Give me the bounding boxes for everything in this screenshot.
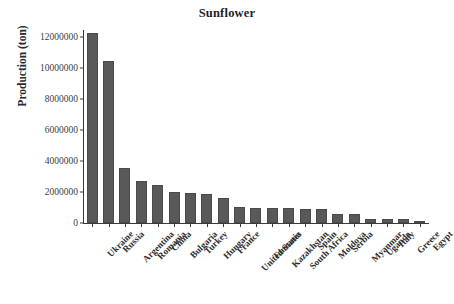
x-tick-mark: [92, 223, 93, 227]
bar-slot[interactable]: [84, 30, 100, 223]
bar-slot[interactable]: [330, 30, 346, 223]
y-tick-label: 8000000: [45, 94, 84, 104]
y-tick-label: 2000000: [45, 187, 84, 197]
x-tick-mark: [174, 223, 175, 227]
bar[interactable]: [267, 208, 278, 223]
chart-figure: Sunflower Production (ton) 0200000040000…: [0, 0, 454, 304]
bar-slot[interactable]: [379, 30, 395, 223]
x-tick-mark: [190, 223, 191, 227]
x-tick-mark: [322, 223, 323, 227]
bar[interactable]: [185, 193, 196, 223]
x-tick-mark: [289, 223, 290, 227]
bar-slot[interactable]: [231, 30, 247, 223]
bar[interactable]: [136, 181, 147, 223]
bar-slot[interactable]: [346, 30, 362, 223]
bar-slot[interactable]: [264, 30, 280, 223]
bar[interactable]: [119, 168, 130, 223]
bar[interactable]: [103, 61, 114, 223]
x-tick-mark: [354, 223, 355, 227]
bar[interactable]: [169, 192, 180, 223]
bar-slot[interactable]: [166, 30, 182, 223]
bar[interactable]: [300, 209, 311, 223]
bar-slot[interactable]: [412, 30, 428, 223]
bar-slot[interactable]: [313, 30, 329, 223]
x-tick-mark: [403, 223, 404, 227]
bar[interactable]: [250, 208, 261, 223]
bar-slot[interactable]: [395, 30, 411, 223]
x-tick-mark: [371, 223, 372, 227]
bar-slot[interactable]: [362, 30, 378, 223]
y-tick-label: 6000000: [45, 125, 84, 135]
bar-slot[interactable]: [199, 30, 215, 223]
bar[interactable]: [316, 209, 327, 223]
y-axis-label: Production (ton): [16, 0, 28, 151]
bar[interactable]: [87, 33, 98, 223]
bar[interactable]: [349, 214, 360, 223]
bar-slot[interactable]: [248, 30, 264, 223]
bar[interactable]: [218, 198, 229, 223]
plot-area: 0200000040000006000000800000010000000120…: [84, 30, 428, 223]
bar-slot[interactable]: [117, 30, 133, 223]
bar-slot[interactable]: [281, 30, 297, 223]
y-tick-label: 4000000: [45, 156, 84, 166]
bar-slot[interactable]: [133, 30, 149, 223]
chart-title: Sunflower: [0, 6, 454, 21]
x-tick-mark: [305, 223, 306, 227]
x-tick-label[interactable]: Serbia: [349, 229, 374, 254]
x-tick-mark: [125, 223, 126, 227]
x-tick-mark: [158, 223, 159, 227]
bar-series: [84, 30, 428, 223]
x-tick-mark: [240, 223, 241, 227]
y-tick-label: 10000000: [40, 63, 84, 73]
x-tick-mark: [141, 223, 142, 227]
bar-slot[interactable]: [215, 30, 231, 223]
bar[interactable]: [201, 194, 212, 223]
x-tick-mark: [272, 223, 273, 227]
bar-slot[interactable]: [150, 30, 166, 223]
x-tick-mark: [223, 223, 224, 227]
bar[interactable]: [152, 185, 163, 223]
bar[interactable]: [283, 208, 294, 223]
x-tick-mark: [338, 223, 339, 227]
y-tick-label: 12000000: [40, 32, 84, 42]
x-tick-mark: [256, 223, 257, 227]
x-tick-mark: [109, 223, 110, 227]
bar-slot[interactable]: [297, 30, 313, 223]
x-tick-mark: [420, 223, 421, 227]
bar-slot[interactable]: [100, 30, 116, 223]
bar-slot[interactable]: [182, 30, 198, 223]
bar[interactable]: [332, 214, 343, 223]
x-tick-mark: [207, 223, 208, 227]
bar[interactable]: [234, 207, 245, 223]
x-tick-mark: [387, 223, 388, 227]
